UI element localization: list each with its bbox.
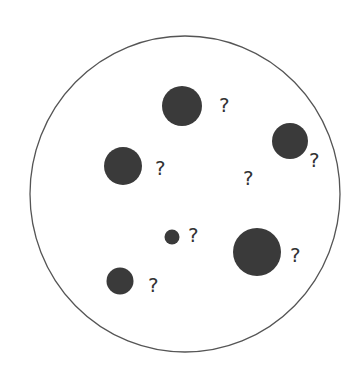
blob-2 (272, 123, 308, 159)
blob-4 (165, 230, 180, 245)
question-mark-label-5: ? (188, 223, 199, 247)
blob-3 (104, 147, 142, 185)
diagram-canvas: ??????? (0, 0, 364, 379)
blob-5 (233, 228, 281, 276)
container-circle (30, 36, 340, 352)
question-mark-label-7: ? (148, 273, 159, 297)
question-mark-label-3: ? (155, 156, 166, 180)
question-mark-label-1: ? (219, 93, 230, 117)
question-mark-label-4: ? (243, 166, 254, 190)
question-mark-label-6: ? (290, 243, 301, 267)
blob-group (104, 86, 308, 295)
question-mark-label-2: ? (309, 148, 320, 172)
blob-1 (162, 86, 202, 126)
blob-6 (107, 268, 134, 295)
